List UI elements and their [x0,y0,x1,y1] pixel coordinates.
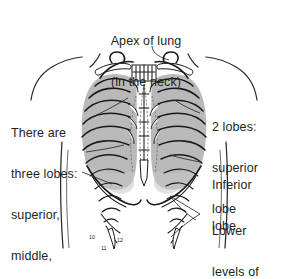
rib-number-12: 12 [117,237,123,243]
label-lower-line1: Lower [212,225,262,239]
label-left-lung-lobes: There are three lobes: superior, middle,… [11,100,78,279]
label-lower-levels: Lower levels of lung and of pleura [212,198,262,279]
label-right-sup-line1: 2 lobes: [212,121,258,135]
label-left-line4: middle, [11,250,78,264]
label-apex-line1: Apex of lung [96,35,196,49]
rib-number-10: 10 [89,234,95,240]
label-left-line1: There are [11,127,78,141]
label-apex-of-lung: Apex of lung (in the neck) [96,8,196,117]
label-inferior-line1: Inferior [212,179,252,193]
label-apex-line2: (in the neck) [96,76,196,90]
lung-anatomy-figure: Apex of lung (in the neck) There are thr… [0,0,288,279]
rib-number-11: 11 [101,245,107,251]
label-left-line3: superior, [11,209,78,223]
label-lower-line2: levels of [212,266,262,279]
label-left-line2: three lobes: [11,168,78,182]
